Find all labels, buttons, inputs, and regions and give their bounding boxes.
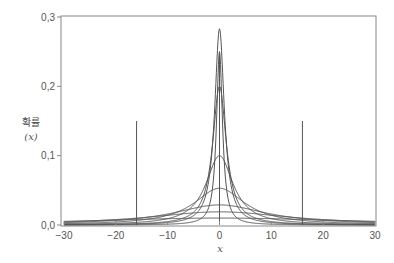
y-axis: 0,00,10,20,3	[41, 12, 61, 231]
y-axis-title: 확률	[22, 117, 40, 128]
y-axis-title-var: (x)	[24, 131, 38, 142]
chart: 0,00,10,20,3 −30−20−100102030 확률 (x) x	[0, 0, 394, 263]
plot-frame	[61, 16, 376, 226]
x-tick-label: −10	[159, 230, 176, 241]
vertical-markers	[137, 52, 303, 225]
x-axis-title: x	[217, 243, 223, 254]
x-tick-label: −20	[107, 230, 124, 241]
y-tick-label: 0,0	[41, 220, 55, 231]
x-tick-label: 10	[266, 230, 278, 241]
y-tick-label: 0,3	[41, 12, 55, 23]
x-tick-label: 0	[217, 230, 223, 241]
y-tick-label: 0,2	[41, 81, 55, 92]
x-tick-label: 30	[369, 230, 381, 241]
plot-border	[61, 16, 376, 226]
y-tick-label: 0,1	[41, 150, 55, 161]
x-tick-label: −30	[56, 230, 73, 241]
x-tick-label: 20	[318, 230, 330, 241]
